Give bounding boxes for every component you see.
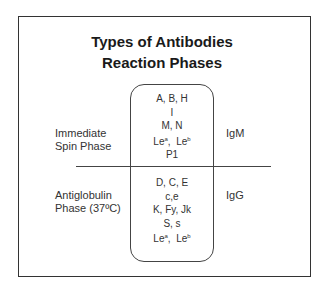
antigen-item-lewis: Lea, Leb xyxy=(130,133,214,149)
igg-antigen-list: D, C, E c,e K, Fy, Jk S, s Lea, Leb xyxy=(130,176,214,246)
antigen-item: P1 xyxy=(130,148,214,162)
antigen-item: c,e xyxy=(130,190,214,204)
diagram-title-line1: Types of Antibodies xyxy=(0,33,324,50)
phase-divider xyxy=(76,166,271,167)
antigen-item: A, B, H xyxy=(130,92,214,106)
igm-label: IgM xyxy=(226,127,244,140)
antigen-item: M, N xyxy=(130,119,214,133)
antigen-item: K, Fy, Jk xyxy=(130,203,214,217)
antigen-item: I xyxy=(130,106,214,120)
antiglobulin-phase-label: Antiglobulin Phase (37ºC) xyxy=(55,189,121,214)
igm-antigen-list: A, B, H I M, N Lea, Leb P1 xyxy=(130,92,214,162)
immediate-spin-label: Immediate Spin Phase xyxy=(55,127,111,152)
antigen-item-lewis: Lea, Leb xyxy=(130,230,214,246)
antigen-item: D, C, E xyxy=(130,176,214,190)
diagram-title-line2: Reaction Phases xyxy=(0,54,324,71)
igg-label: IgG xyxy=(226,189,244,202)
antigen-item: S, s xyxy=(130,217,214,231)
